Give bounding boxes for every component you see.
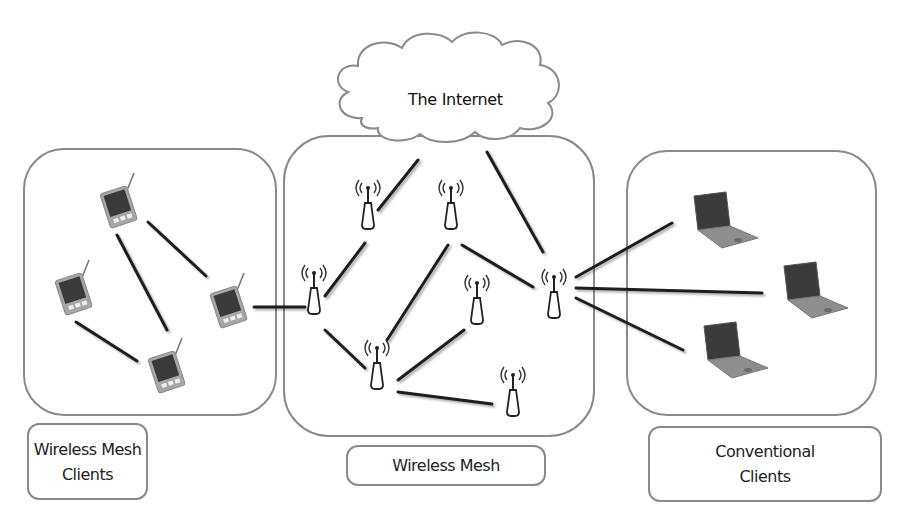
conventional-clients-label-box: Conventional Clients bbox=[648, 426, 882, 502]
laptop-icon bbox=[694, 192, 758, 248]
pda-device-icon bbox=[100, 173, 138, 228]
conventional-clients-label-line2: Clients bbox=[715, 464, 814, 489]
wireless-mesh-diagram: The Internet Wireless Mesh Clients Wirel… bbox=[0, 0, 899, 523]
mesh-label-box: Wireless Mesh bbox=[346, 445, 546, 486]
laptop-icon bbox=[704, 322, 768, 378]
conventional-clients-label-line1: Conventional bbox=[715, 439, 814, 464]
internet-cloud bbox=[338, 33, 559, 142]
pda-device-icon bbox=[55, 260, 93, 315]
mesh-clients-label-box: Wireless Mesh Clients bbox=[27, 423, 148, 500]
pda-device-icon bbox=[210, 273, 248, 328]
pda-device-icon bbox=[148, 338, 186, 393]
mesh-clients-label-line2: Clients bbox=[34, 462, 142, 487]
laptop-icon bbox=[784, 262, 848, 318]
mesh-box bbox=[284, 136, 594, 436]
internet-label: The Internet bbox=[408, 90, 503, 109]
mesh-clients-label-line1: Wireless Mesh bbox=[34, 437, 142, 462]
mesh-label: Wireless Mesh bbox=[392, 453, 500, 478]
conventional-clients-box bbox=[627, 151, 876, 415]
